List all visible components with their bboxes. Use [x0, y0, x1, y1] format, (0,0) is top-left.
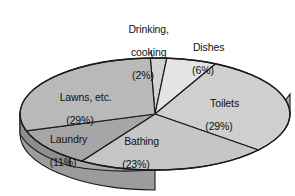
slice-percent-dishes: (6%): [176, 65, 230, 77]
slice-label-toilets-text: Toilets: [210, 97, 239, 109]
slice-label-laundry-text: Laundry: [50, 133, 87, 145]
slice-label-dishes-text: Dishes: [193, 41, 225, 53]
slice-label-lawns-text: Lawns, etc.: [60, 91, 112, 103]
slice-percent-toilets: (29%): [190, 121, 248, 133]
slice-percent-laundry: (11%): [32, 157, 94, 169]
pie-chart-figure: Drinking, cooking (2%) Dishes (6%) Toile…: [0, 0, 295, 196]
slice-label-bathing-text: Bathing: [124, 135, 159, 147]
slice-label-bathing: Bathing (23%): [106, 124, 166, 193]
slice-percent-bathing: (23%): [106, 159, 166, 171]
slice-label-toilets: Toilets (29%): [190, 86, 248, 155]
slice-label-drinking-line1: Drinking,: [128, 23, 169, 35]
slice-label-drinking-line2: cooking: [131, 46, 167, 58]
slice-label-laundry: Laundry (11%): [32, 122, 94, 191]
